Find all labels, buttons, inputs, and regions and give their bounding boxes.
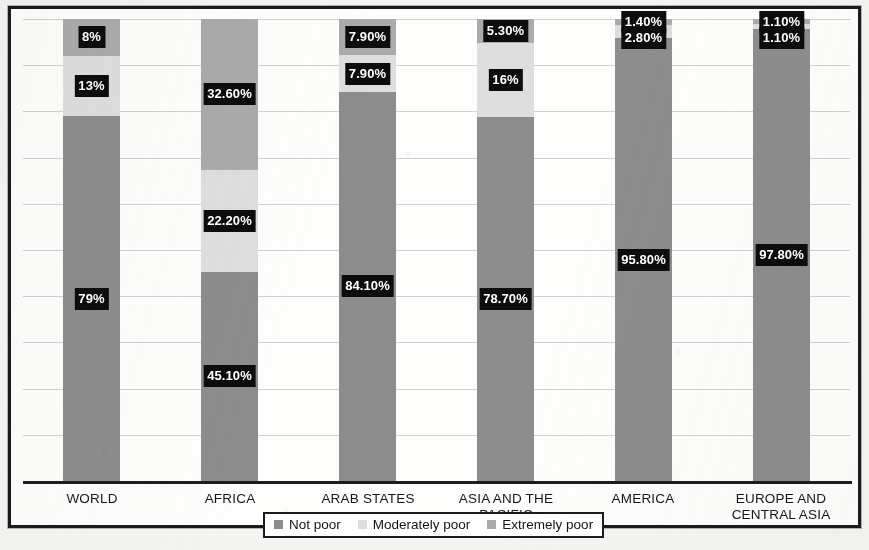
- bar-group-europe[interactable]: 1.10%1.10%97.80%: [753, 19, 810, 481]
- data-label: 78.70%: [479, 288, 532, 310]
- category-label-africa: AFRICA: [164, 491, 296, 507]
- data-label: 7.90%: [345, 63, 390, 85]
- gridline: [23, 158, 850, 159]
- chart-legend: Not poorModerately poorExtremely poor: [263, 512, 604, 538]
- chart-frame: 8%13%79%32.60%22.20%45.10%7.90%7.90%84.1…: [8, 6, 861, 528]
- bar-group-america[interactable]: 1.40%2.80%95.80%: [615, 19, 672, 481]
- bar-group-africa[interactable]: 32.60%22.20%45.10%: [201, 19, 258, 481]
- gridline: [23, 389, 850, 390]
- data-label: 2.80%: [621, 27, 666, 49]
- legend-item-extremely-poor[interactable]: Extremely poor: [487, 517, 593, 532]
- gridline: [23, 204, 850, 205]
- legend-label: Moderately poor: [373, 517, 471, 532]
- data-label: 95.80%: [617, 249, 670, 271]
- gridline: [23, 111, 850, 112]
- data-label: 5.30%: [483, 20, 528, 42]
- data-label: 7.90%: [345, 26, 390, 48]
- gridline: [23, 435, 850, 436]
- data-label: 1.10%: [759, 27, 804, 49]
- legend-label: Not poor: [289, 517, 341, 532]
- gridline: [23, 65, 850, 66]
- category-label-arab: ARAB STATES: [302, 491, 434, 507]
- plot-area: 8%13%79%32.60%22.20%45.10%7.90%7.90%84.1…: [23, 19, 850, 481]
- data-label: 8%: [78, 26, 105, 48]
- category-label-america: AMERICA: [577, 491, 709, 507]
- data-label: 97.80%: [755, 244, 808, 266]
- data-label: 32.60%: [203, 83, 256, 105]
- bar-group-world[interactable]: 8%13%79%: [63, 19, 120, 481]
- bar-column: [339, 19, 396, 481]
- legend-label: Extremely poor: [502, 517, 593, 532]
- bar-group-arab[interactable]: 7.90%7.90%84.10%: [339, 19, 396, 481]
- data-label: 16%: [488, 69, 522, 91]
- chart-page: 8%13%79%32.60%22.20%45.10%7.90%7.90%84.1…: [0, 0, 869, 550]
- legend-item-moderately-poor[interactable]: Moderately poor: [358, 517, 471, 532]
- legend-item-not-poor[interactable]: Not poor: [274, 517, 341, 532]
- gridline: [23, 342, 850, 343]
- data-label: 22.20%: [203, 210, 256, 232]
- gridline: [23, 19, 850, 20]
- data-label: 45.10%: [203, 365, 256, 387]
- data-label: 84.10%: [341, 275, 394, 297]
- legend-swatch-icon: [358, 520, 367, 529]
- x-axis-line: [23, 481, 852, 484]
- data-label: 13%: [74, 75, 108, 97]
- gridline: [23, 296, 850, 297]
- gridline: [23, 250, 850, 251]
- category-label-europe: EUROPE AND CENTRAL ASIA: [715, 491, 847, 523]
- bar-group-asia[interactable]: 5.30%16%78.70%: [477, 19, 534, 481]
- legend-swatch-icon: [487, 520, 496, 529]
- category-label-world: WORLD: [26, 491, 158, 507]
- legend-swatch-icon: [274, 520, 283, 529]
- data-label: 79%: [74, 288, 108, 310]
